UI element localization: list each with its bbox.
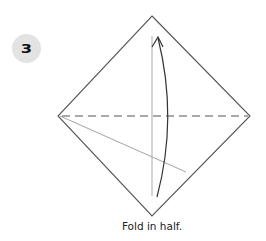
instruction-caption: Fold in half. bbox=[0, 220, 266, 232]
fold-diagram bbox=[0, 0, 266, 241]
instruction-text: Fold in half. bbox=[122, 220, 182, 232]
